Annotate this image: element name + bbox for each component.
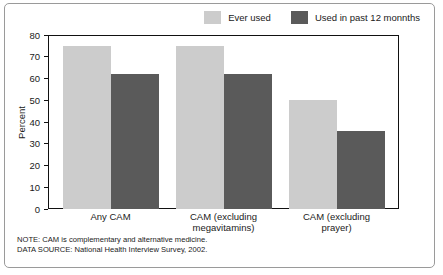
legend-swatch-used-past-12-months — [291, 11, 308, 24]
bar — [224, 74, 272, 209]
plot-area — [48, 35, 399, 209]
x-axis-labels: Any CAMCAM (excludingmegavitamins)CAM (e… — [48, 212, 399, 233]
x-axis-label-line: Any CAM — [59, 212, 163, 223]
legend-entry-ever-used: Ever used — [204, 11, 271, 24]
bar-groups — [48, 35, 399, 209]
bar-group — [289, 35, 385, 209]
x-axis-label-line: megavitamins) — [172, 223, 276, 234]
y-axis-ticks: 01020304050607080 — [5, 35, 48, 209]
footnote-line: NOTE: CAM is complementary and alternati… — [17, 235, 417, 245]
bar-group — [63, 35, 159, 209]
x-axis-label: CAM (excludingmegavitamins) — [172, 212, 276, 233]
x-axis-label: CAM (excludingprayer) — [285, 212, 389, 233]
bar — [289, 100, 337, 209]
y-tick-label: 50 — [29, 94, 44, 105]
legend-label-ever-used: Ever used — [228, 12, 271, 23]
legend-label-used-past-12-months: Used in past 12 monnths — [315, 12, 420, 23]
y-tick-label: 40 — [29, 116, 44, 127]
y-tick-label: 30 — [29, 138, 44, 149]
y-tick-label: 20 — [29, 160, 44, 171]
x-axis-label-line: CAM (excluding — [172, 212, 276, 223]
x-axis-label-line: prayer) — [285, 223, 389, 234]
x-axis-label-line: CAM (excluding — [285, 212, 389, 223]
chart-figure: Ever used Used in past 12 monnths Percen… — [4, 3, 435, 268]
chart-legend: Ever used Used in past 12 monnths — [5, 11, 434, 24]
bar — [63, 46, 111, 209]
y-tick-label: 0 — [35, 203, 44, 214]
y-tick-label: 80 — [29, 29, 44, 40]
chart-footnotes: NOTE: CAM is complementary and alternati… — [17, 235, 417, 255]
y-tick-label: 70 — [29, 51, 44, 62]
bar — [111, 74, 159, 209]
x-axis-label: Any CAM — [59, 212, 163, 233]
bar — [176, 46, 224, 209]
legend-swatch-ever-used — [204, 11, 221, 24]
footnote-line: DATA SOURCE: National Health Interview S… — [17, 245, 417, 255]
y-tick-label: 10 — [29, 181, 44, 192]
bar — [337, 131, 385, 209]
bar-group — [176, 35, 272, 209]
y-tick-label: 60 — [29, 73, 44, 84]
legend-entry-used-past-12-months: Used in past 12 monnths — [291, 11, 420, 24]
